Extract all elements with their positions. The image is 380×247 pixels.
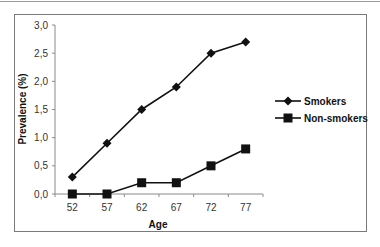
diamond-marker bbox=[241, 37, 250, 46]
x-tick-label: 72 bbox=[205, 202, 217, 213]
x-tick-label: 57 bbox=[101, 202, 113, 213]
y-tick-label: 1,5 bbox=[34, 104, 48, 115]
y-tick-label: 2,0 bbox=[34, 76, 48, 87]
legend: SmokersNon-smokers bbox=[275, 96, 368, 124]
square-marker bbox=[137, 178, 146, 187]
data-series bbox=[68, 37, 250, 198]
square-marker bbox=[172, 178, 181, 187]
legend-label: Smokers bbox=[304, 96, 347, 107]
y-tick-label: 0,0 bbox=[34, 189, 48, 200]
square-marker bbox=[207, 161, 216, 170]
square-marker bbox=[284, 114, 293, 123]
diamond-marker bbox=[284, 97, 293, 106]
line-chart: 0,00,51,01,52,02,53,0 525762677277 Preva… bbox=[0, 0, 380, 247]
x-tick-label: 77 bbox=[240, 202, 252, 213]
y-tick-label: 3,0 bbox=[34, 20, 48, 31]
legend-item: Non-smokers bbox=[275, 113, 368, 124]
y-axis: 0,00,51,01,52,02,53,0 bbox=[34, 20, 55, 200]
square-marker bbox=[241, 144, 250, 153]
y-axis-title: Prevalence (%) bbox=[17, 73, 28, 144]
square-marker bbox=[103, 190, 112, 199]
y-tick-label: 1,0 bbox=[34, 132, 48, 143]
square-marker bbox=[68, 190, 77, 199]
y-tick-label: 0,5 bbox=[34, 160, 48, 171]
x-axis: 525762677277 bbox=[55, 194, 263, 213]
series-non-smokers bbox=[68, 144, 250, 198]
y-tick-label: 2,5 bbox=[34, 48, 48, 59]
x-tick-label: 52 bbox=[67, 202, 79, 213]
legend-label: Non-smokers bbox=[304, 113, 368, 124]
legend-item: Smokers bbox=[275, 96, 347, 107]
x-axis-title: Age bbox=[149, 219, 168, 230]
x-tick-label: 67 bbox=[171, 202, 183, 213]
x-tick-label: 62 bbox=[136, 202, 148, 213]
